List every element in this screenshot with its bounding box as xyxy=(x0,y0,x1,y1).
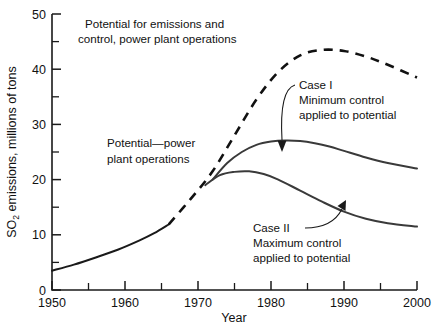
y-tick-label: 50 xyxy=(32,8,46,22)
title-annotation-line-2: control, power plant operations xyxy=(78,32,237,45)
x-tick-label: 1950 xyxy=(38,296,66,310)
y-axis-title-prefix: SO xyxy=(5,219,19,237)
case-2-annotation: Case II Maximum control applied to poten… xyxy=(253,200,350,264)
case-1-annotation-line-1: Case I xyxy=(299,78,333,91)
series-case-2 xyxy=(205,171,417,226)
potential-annotation-line-2: plant operations xyxy=(107,152,190,165)
series-potential-dashed xyxy=(169,50,417,225)
case-1-arrowhead xyxy=(278,141,287,153)
x-axis-tick-labels: 1950 1960 1970 1980 1990 2000 xyxy=(38,296,431,310)
x-tick-label: 2000 xyxy=(403,296,431,310)
x-axis-title: Year xyxy=(221,311,246,325)
case-2-annotation-line-2: Maximum control xyxy=(253,236,341,249)
x-tick-label: 1960 xyxy=(111,296,139,310)
series-case-1 xyxy=(213,140,417,179)
y-tick-label: 40 xyxy=(32,63,46,77)
title-annotation-line-1: Potential for emissions and xyxy=(85,17,224,30)
y-tick-label: 20 xyxy=(32,173,46,187)
title-annotation: Potential for emissions and control, pow… xyxy=(78,17,237,45)
y-axis-ticks xyxy=(52,14,61,290)
y-tick-label: 10 xyxy=(32,228,46,242)
x-tick-label: 1980 xyxy=(257,296,285,310)
case-2-annotation-line-1: Case II xyxy=(253,221,290,234)
case-1-leader-line xyxy=(282,85,295,140)
potential-annotation: Potential—power plant operations xyxy=(107,136,195,165)
y-tick-label: 30 xyxy=(32,118,46,132)
y-axis-title-suffix: emissions, millions of tons xyxy=(5,66,19,215)
x-axis-ticks xyxy=(52,281,417,290)
x-tick-label: 1990 xyxy=(330,296,358,310)
case-1-annotation-line-2: Minimum control xyxy=(299,93,384,106)
case-1-annotation-line-3: applied to potential xyxy=(299,108,396,121)
chart-figure: 0 10 20 30 40 50 SO2 emissions, millions… xyxy=(0,0,442,329)
y-axis-title: SO2 emissions, millions of tons xyxy=(5,66,21,237)
case-2-leader-line xyxy=(305,209,342,228)
potential-annotation-line-1: Potential—power xyxy=(107,136,195,149)
case-2-annotation-line-3: applied to potential xyxy=(253,251,350,264)
chart-svg: 0 10 20 30 40 50 SO2 emissions, millions… xyxy=(0,0,442,329)
x-tick-label: 1970 xyxy=(184,296,212,310)
series-historical xyxy=(52,224,169,270)
y-axis-tick-labels: 0 10 20 30 40 50 xyxy=(32,8,46,298)
